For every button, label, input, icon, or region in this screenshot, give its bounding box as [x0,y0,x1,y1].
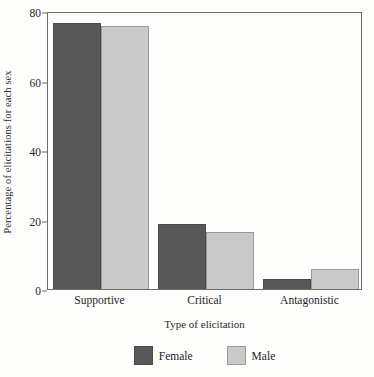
x-axis-title: Type of elicitation [47,318,362,330]
x-axis-tick-label-critical: Critical [187,294,222,306]
y-axis-tick-mark [42,152,47,153]
legend-label: Male [252,350,276,362]
y-axis-tick-mark [42,82,47,83]
y-axis-tick-label: 20 [30,216,42,228]
legend-swatch-female-icon [134,346,153,365]
bar-supportive-female [53,23,101,289]
x-axis-tick-label-supportive: Supportive [74,294,124,306]
y-axis-title: Percentage of elicitations for each sex [2,2,18,302]
bar-critical-female [158,224,206,289]
bar-supportive-male [101,26,149,289]
bar-antagonistic-female [263,279,311,289]
chart-legend: FemaleMale [47,346,362,365]
y-axis-tick-label: 40 [30,146,42,158]
legend-item-male: Male [227,346,276,365]
plot-area: 020406080 [47,12,362,290]
legend-item-female: Female [134,346,193,365]
y-axis-tick-label: 80 [30,7,42,19]
y-axis-tick-label: 0 [35,285,41,297]
legend-swatch-male-icon [227,346,246,365]
x-axis-tick-label-antagonistic: Antagonistic [280,294,339,306]
y-axis-tick-mark [42,291,47,292]
legend-label: Female [159,350,193,362]
y-axis-tick-label: 60 [30,77,42,89]
y-axis-tick-mark [42,13,47,14]
bar-antagonistic-male [311,269,359,289]
bar-critical-male [206,232,254,289]
y-axis-tick-mark [42,221,47,222]
chart-figure: Percentage of elicitations for each sex … [0,0,374,377]
